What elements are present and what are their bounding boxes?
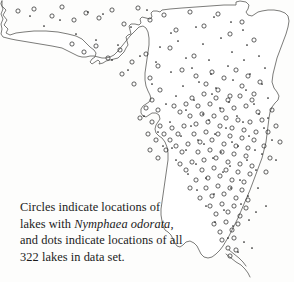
lake-marker-dot	[267, 97, 269, 99]
lake-marker-dot	[251, 247, 253, 249]
figure-caption: Circles indicate locations of lakes with…	[20, 199, 230, 265]
lake-marker-dot	[240, 203, 242, 205]
lake-marker-dot	[180, 135, 182, 137]
lake-marker-circle	[244, 206, 248, 210]
lake-marker-circle	[16, 9, 20, 13]
lake-marker-dot	[202, 113, 204, 115]
lake-marker-dot	[182, 85, 184, 87]
lake-marker-circle	[60, 5, 64, 9]
florida-lake-distribution-figure: Circles indicate locations of lakes with…	[0, 0, 294, 282]
lake-marker-dot	[157, 131, 159, 133]
lake-marker-circle	[154, 138, 158, 142]
lake-marker-dot	[271, 139, 273, 141]
lake-marker-dot	[185, 109, 187, 111]
lake-marker-circle	[72, 18, 76, 22]
lake-marker-dot	[170, 71, 172, 73]
lake-marker-dot	[255, 169, 257, 171]
lake-marker-dot	[130, 26, 132, 28]
species-name: Nymphaea odorata	[74, 217, 170, 231]
lake-marker-dot	[127, 69, 129, 71]
lake-marker-dot	[211, 93, 213, 95]
lake-marker-circle	[268, 156, 272, 160]
lake-marker-dot	[243, 241, 245, 243]
lake-marker-circle	[110, 8, 114, 12]
lake-marker-dot	[248, 219, 250, 221]
lake-marker-circle	[150, 120, 154, 124]
lake-marker-dot	[229, 165, 231, 167]
lake-marker-dot	[232, 225, 234, 227]
lake-marker-circle	[84, 11, 88, 15]
lake-marker-dot	[159, 46, 161, 48]
lake-marker-dot	[242, 121, 244, 123]
lake-marker-dot	[171, 147, 173, 149]
lake-marker-dot	[191, 67, 193, 69]
lake-marker-dot	[227, 65, 229, 67]
lake-marker-circle	[138, 116, 142, 120]
lake-marker-circle	[246, 198, 250, 202]
lake-marker-dot	[242, 29, 244, 31]
lake-marker-dot	[75, 33, 77, 35]
lake-marker-dot	[239, 179, 241, 181]
lake-marker-circle	[148, 148, 152, 152]
lake-marker-circle	[32, 7, 36, 11]
lake-marker-dot	[102, 13, 104, 15]
lake-marker-dot	[208, 59, 210, 61]
lake-marker-circle	[234, 248, 238, 252]
lake-marker-dot	[185, 57, 187, 59]
lake-marker-dot	[151, 83, 153, 85]
lake-marker-dot	[265, 205, 267, 207]
lake-marker-dot	[213, 16, 215, 18]
lake-marker-circle	[122, 22, 126, 26]
lake-marker-dot	[263, 127, 265, 129]
lake-marker-dot	[162, 145, 164, 147]
lake-marker-dot	[264, 67, 266, 69]
lake-marker-dot	[95, 39, 97, 41]
lake-marker-dot	[225, 127, 227, 129]
lake-marker-dot	[267, 117, 269, 119]
lake-marker-dot	[185, 149, 187, 151]
lake-marker-dot	[155, 61, 157, 63]
lake-marker-dot	[257, 187, 259, 189]
lake-marker-dot	[246, 159, 248, 161]
lake-marker-dot	[232, 79, 234, 81]
lake-marker-dot	[253, 103, 255, 105]
caption-line-4: 322 lakes in data set.	[20, 249, 230, 266]
lake-marker-dot	[143, 115, 145, 117]
lake-marker-dot	[202, 43, 204, 45]
lake-marker-circle	[236, 222, 240, 226]
lake-marker-dot	[170, 32, 172, 34]
caption-line-1: Circles indicate locations of	[20, 199, 230, 216]
lake-marker-circle	[156, 156, 160, 160]
lake-marker-dot	[220, 151, 222, 153]
lake-marker-circle	[264, 170, 268, 174]
lake-marker-dot	[139, 55, 141, 57]
lake-marker-dot	[187, 173, 189, 175]
lake-marker-dot	[231, 141, 233, 143]
caption-line-2-prefix: lakes with	[20, 217, 74, 231]
lake-marker-circle	[97, 16, 101, 20]
lake-marker-circle	[94, 44, 98, 48]
lake-marker-dot	[190, 125, 192, 127]
lake-marker-dot	[247, 195, 249, 197]
lake-marker-dot	[230, 187, 232, 189]
lake-marker-circle	[120, 72, 124, 76]
lake-marker-dot	[198, 81, 200, 83]
lake-marker-dot	[248, 135, 250, 137]
lake-marker-dot	[117, 44, 119, 46]
lake-marker-dot	[175, 159, 177, 161]
lake-marker-dot	[255, 211, 257, 213]
lake-marker-dot	[246, 44, 248, 46]
lake-marker-dot	[59, 19, 61, 21]
lake-marker-circle	[136, 6, 140, 10]
lake-marker-circle	[274, 124, 278, 128]
lake-marker-dot	[220, 37, 222, 39]
lake-marker-dot	[275, 159, 277, 161]
lake-marker-circle	[130, 60, 134, 64]
lake-marker-dot	[165, 103, 167, 105]
lake-marker-dot	[231, 51, 233, 53]
lake-marker-dot	[254, 149, 256, 151]
caption-line-3: and dots indicate locations of all	[20, 232, 230, 249]
lake-marker-dot	[175, 95, 177, 97]
lake-marker-circle	[146, 132, 150, 136]
lake-marker-dot	[236, 115, 238, 117]
